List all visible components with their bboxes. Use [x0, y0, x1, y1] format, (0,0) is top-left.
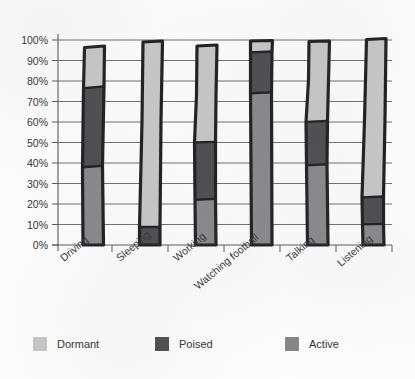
- y-tick-label: 60%: [27, 116, 48, 128]
- bar-segment-active: [307, 165, 329, 246]
- divider-active-poised: [307, 164, 328, 165]
- y-tick-label: 80%: [27, 75, 48, 87]
- y-tick-marks: [52, 40, 58, 245]
- divider-active-poised: [363, 224, 384, 225]
- bar-segment-poised: [251, 52, 273, 94]
- bar-segment-dormant: [84, 46, 105, 89]
- x-tick-label-listening: Listening: [335, 232, 375, 268]
- y-tick-label: 50%: [27, 137, 48, 149]
- bar-segment-active: [83, 166, 104, 245]
- bar-segment-active: [251, 93, 273, 246]
- legend-label-poised: Poised: [179, 338, 213, 350]
- legend-label-dormant: Dormant: [57, 338, 99, 350]
- divider-poised-dormant: [195, 142, 216, 143]
- bar-group-watching-football: [251, 41, 273, 246]
- chart-container: 100% 90% 80% 70% 60% 50% 40% 30% 20% 10%…: [0, 0, 415, 379]
- bar-group-sleeping: [140, 41, 163, 245]
- divider-active-poised: [251, 92, 272, 93]
- y-tick-label: 30%: [27, 178, 48, 190]
- y-tick-label: 0%: [33, 239, 48, 251]
- legend-label-active: Active: [309, 338, 339, 350]
- bar-segment-poised: [195, 142, 216, 200]
- bar-segment-poised: [306, 121, 328, 166]
- y-tick-label: 90%: [27, 55, 48, 67]
- x-tick-label-talking: Talking: [284, 233, 317, 263]
- y-tick-label: 20%: [27, 198, 48, 210]
- gridlines: [58, 40, 392, 225]
- stacked-bar-chart: 100% 90% 80% 70% 60% 50% 40% 30% 20% 10%…: [0, 0, 415, 379]
- divider-poised-dormant: [306, 121, 327, 122]
- bar-group-working: [195, 45, 218, 245]
- bar-group-talking: [306, 41, 330, 245]
- divider-active-poised: [195, 199, 216, 200]
- divider-active-poised: [83, 166, 103, 167]
- y-tick-label: 100%: [21, 34, 48, 46]
- bar-segment-poised: [362, 197, 384, 225]
- chart-legend: Dormant Poised Active: [33, 337, 339, 351]
- legend-swatch-dormant: [33, 337, 47, 351]
- x-tick-label-driving: Driving: [58, 233, 91, 263]
- legend-swatch-poised: [155, 337, 169, 351]
- bar-segment-poised: [83, 87, 105, 168]
- y-tick-label: 40%: [27, 157, 48, 169]
- divider-poised-dormant: [362, 197, 383, 198]
- legend-swatch-active: [285, 337, 299, 351]
- y-axis-labels: 100% 90% 80% 70% 60% 50% 40% 30% 20% 10%…: [21, 34, 48, 251]
- y-tick-label: 70%: [27, 96, 48, 108]
- bar-group-driving: [83, 46, 105, 245]
- bar-group-listening: [362, 39, 386, 246]
- divider-poised-dormant: [251, 52, 273, 53]
- y-tick-label: 10%: [27, 219, 48, 231]
